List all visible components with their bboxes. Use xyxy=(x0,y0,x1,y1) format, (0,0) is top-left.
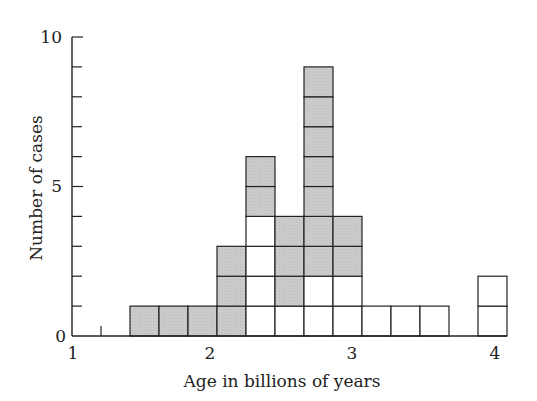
histogram-cell-shaded xyxy=(304,67,333,97)
histogram-cell-unshaded xyxy=(478,306,507,336)
histogram-cell-unshaded xyxy=(304,306,333,336)
histogram-cell-shaded xyxy=(246,187,275,217)
x-tick-label-3: 3 xyxy=(347,343,358,363)
histogram-cell-unshaded xyxy=(246,246,275,276)
histogram-cell-shaded xyxy=(275,246,304,276)
histogram-cell-shaded xyxy=(304,97,333,127)
histogram-cell-shaded xyxy=(130,306,159,336)
x-tick-label-1: 1 xyxy=(68,343,79,363)
y-axis-title: Number of cases xyxy=(26,115,46,261)
histogram-cell-shaded xyxy=(275,276,304,306)
histogram-bars xyxy=(130,67,507,336)
histogram-cell-unshaded xyxy=(420,306,449,336)
histogram-cell-unshaded xyxy=(246,276,275,306)
histogram-cell-shaded xyxy=(188,306,217,336)
y-tick-label-0: 0 xyxy=(55,326,66,346)
histogram-cell-shaded xyxy=(304,157,333,187)
axis-ticks xyxy=(72,37,101,336)
y-tick-label-5: 5 xyxy=(51,176,62,196)
histogram-chart: 10 5 0 1 2 3 4 Age in billions of years … xyxy=(0,0,537,401)
histogram-cell-unshaded xyxy=(304,276,333,306)
histogram-cell-shaded xyxy=(304,246,333,276)
histogram-cell-shaded xyxy=(159,306,188,336)
y-tick-label-10: 10 xyxy=(40,27,62,47)
histogram-cell-unshaded xyxy=(333,276,362,306)
histogram-cell-shaded xyxy=(333,246,362,276)
histogram-cell-shaded xyxy=(304,187,333,217)
histogram-cell-unshaded xyxy=(246,216,275,246)
histogram-cell-unshaded xyxy=(478,276,507,306)
histogram-cell-shaded xyxy=(304,127,333,157)
histogram-cell-shaded xyxy=(275,216,304,246)
histogram-cell-shaded xyxy=(217,276,246,306)
histogram-cell-unshaded xyxy=(246,306,275,336)
histogram-cell-unshaded xyxy=(333,306,362,336)
histogram-cell-shaded xyxy=(217,246,246,276)
histogram-cell-unshaded xyxy=(275,306,304,336)
x-axis-title: Age in billions of years xyxy=(183,371,381,391)
x-tick-label-4: 4 xyxy=(490,343,501,363)
histogram-cell-unshaded xyxy=(391,306,420,336)
histogram-cell-shaded xyxy=(246,157,275,187)
histogram-cell-shaded xyxy=(304,216,333,246)
x-tick-label-2: 2 xyxy=(205,343,216,363)
histogram-cell-shaded xyxy=(217,306,246,336)
histogram-cell-unshaded xyxy=(362,306,391,336)
histogram-cell-shaded xyxy=(333,216,362,246)
